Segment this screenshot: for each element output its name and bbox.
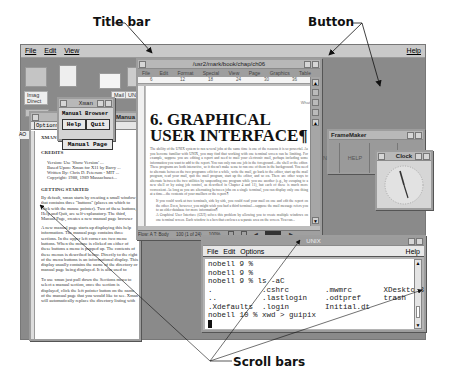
desktop-menubar: File Edit View Help [21, 45, 425, 58]
document-para-1: The ability of the UNIX system to run se… [146, 147, 312, 199]
manpage-scrollbar[interactable] [31, 131, 35, 339]
menu-graphics[interactable]: Graphics [270, 70, 290, 76]
terminal-line: nobell 9 % ls -aC [208, 277, 411, 286]
menu-file[interactable]: File [25, 47, 36, 54]
unix-terminal-menubar: File Edit Options Help [203, 246, 424, 257]
document-icon[interactable] [59, 65, 77, 87]
manpage-content: XMAN is an X Window System ... CREDITS V… [41, 135, 139, 303]
terminal-line: nobell 9 % [208, 260, 411, 269]
menu-file[interactable]: File [142, 70, 150, 76]
icon-label-image-directory[interactable]: Imag Direct [24, 91, 48, 105]
side-what-label: What [301, 100, 310, 105]
scroll-down-icon[interactable]: ▼ [415, 322, 421, 328]
terminal-line: .Xdefaults .login Initial.dt [208, 303, 411, 312]
side-label: AO [19, 131, 29, 139]
getting-started-heading: GETTING STARTED [41, 187, 139, 192]
xman-help-button[interactable]: Help [62, 119, 86, 130]
scroll-thumb[interactable] [416, 306, 420, 318]
menu-table[interactable]: Table [299, 70, 311, 76]
document-para-2: If you could work at two terminals, side… [146, 199, 312, 213]
mail-icon[interactable] [99, 73, 121, 89]
credits-copyright: Copyright: 1988, 1989 Massachuset... [47, 175, 139, 180]
menu-format[interactable]: Format [177, 70, 193, 76]
clock-title: Clock [396, 153, 412, 159]
menu-edit[interactable]: Edit [159, 70, 168, 76]
unix-terminal-title: UNIX [306, 238, 320, 244]
clock-window[interactable]: Clock [375, 150, 433, 210]
xman-titlebar[interactable]: Xman [59, 99, 113, 108]
terminal-cursor [208, 320, 212, 328]
maximize-button[interactable] [312, 61, 319, 68]
menu-file[interactable]: File [207, 248, 218, 255]
ruler-tick-12: 12 [180, 77, 185, 82]
callout-button: Button [308, 15, 354, 29]
credits-heading: CREDITS [41, 150, 139, 155]
status-flow: Flow: A T: Body [138, 232, 169, 237]
framemaker-panel-title: FrameMaker [331, 132, 366, 138]
maximize-button[interactable] [423, 153, 430, 160]
ruler-tick-30: 30 [264, 77, 269, 82]
framemaker-new-button[interactable]: N [311, 143, 340, 173]
document-page[interactable]: What 6. GRAPHICAL USER INTERFACE¶ The ab… [146, 86, 312, 226]
manpage-title: Manua [116, 113, 135, 122]
scroll-up-icon[interactable]: ▲ [312, 79, 319, 86]
document-heading: 6. GRAPHICAL USER INTERFACE¶ [146, 86, 312, 147]
maximize-button[interactable] [415, 132, 422, 139]
clock-titlebar[interactable]: Clock [377, 152, 431, 161]
minimize-button[interactable] [304, 61, 311, 68]
menu-help[interactable]: Help [407, 47, 421, 54]
xman-window[interactable]: Xman Manual Browser Help Quit Manual Pag… [57, 97, 115, 141]
tool-icon[interactable] [312, 109, 319, 116]
scroll-up-icon[interactable]: ▲ [312, 119, 319, 126]
callout-title-bar: Title bar [93, 15, 150, 29]
ruler-tick-36: 36 [292, 77, 297, 82]
scroll-up-icon[interactable]: ▲ [415, 260, 421, 266]
menu-view[interactable]: View [229, 70, 240, 76]
unix-terminal-titlebar[interactable]: UNIX [203, 237, 424, 246]
framemaker-help-button[interactable]: HELP [341, 143, 370, 173]
xman-quit-button[interactable]: Quit [86, 119, 110, 130]
manpage-para-2: A new manual page starts up displaying t… [41, 225, 139, 273]
xman-manual-page-button[interactable]: Manual Page [62, 139, 113, 150]
credits-list: Version: Use 'Show Version' ... Based Up… [41, 160, 139, 181]
window-menu-button[interactable] [60, 100, 67, 107]
minimize-button[interactable] [415, 153, 422, 160]
scroll-down-icon[interactable]: ▼ [312, 217, 319, 224]
ruler-tick-24: 24 [236, 77, 241, 82]
terminal-line: nobell 9 % [208, 269, 411, 278]
manpage-para-3: To use xman just pull down the Sections … [41, 277, 139, 303]
ruler-tick-18: 18 [208, 77, 213, 82]
window-menu-button[interactable] [32, 114, 39, 121]
terminal-line: nobell 10 % xwd > guipix [208, 311, 411, 320]
terminal-output[interactable]: nobell 9 % nobell 9 % nobell 9 % ls -aC … [205, 259, 414, 329]
terminal-vertical-scrollbar[interactable]: ▲ ▼ [414, 259, 422, 329]
menu-options[interactable]: Options [240, 248, 264, 255]
window-menu-button[interactable] [378, 153, 385, 160]
menu-edit[interactable]: Edit [44, 47, 56, 54]
xman-title: Xman [79, 100, 93, 107]
framemaker-doc-titlebar[interactable]: /usr2/mark/book/chap/ch06 [138, 60, 320, 69]
analog-clock-face [377, 161, 431, 209]
callout-scroll-bars: Scroll bars [233, 355, 305, 369]
menu-help[interactable]: Help [406, 248, 420, 255]
folder-icon[interactable] [25, 67, 47, 87]
menu-edit[interactable]: Edit [223, 248, 235, 255]
menu-page[interactable]: Page [249, 70, 261, 76]
maximize-button[interactable] [105, 100, 112, 107]
framemaker-document-window[interactable]: /usr2/mark/book/chap/ch06 File Edit Form… [136, 58, 322, 240]
unix-terminal-window[interactable]: UNIX File Edit Options Help nobell 9 % n… [201, 235, 426, 332]
manpage-para-1: By default, xman starts by creating a sm… [41, 195, 139, 221]
minimize-button[interactable] [408, 238, 415, 245]
xman-heading: Manual Browser [59, 108, 113, 119]
minimize-button[interactable] [97, 100, 104, 107]
framemaker-panel-titlebar[interactable]: FrameMaker [329, 131, 423, 140]
minimize-button[interactable] [407, 132, 414, 139]
status-page[interactable]: 100 (1 of 24) [176, 232, 202, 237]
menu-special[interactable]: Special [203, 70, 219, 76]
ruler[interactable]: 6 12 18 24 30 36 [138, 77, 310, 84]
menu-view[interactable]: View [64, 47, 79, 54]
maximize-button[interactable] [416, 238, 423, 245]
tool-icon[interactable] [312, 99, 319, 106]
window-menu-button[interactable] [139, 61, 146, 68]
tool-icon[interactable] [312, 89, 319, 96]
